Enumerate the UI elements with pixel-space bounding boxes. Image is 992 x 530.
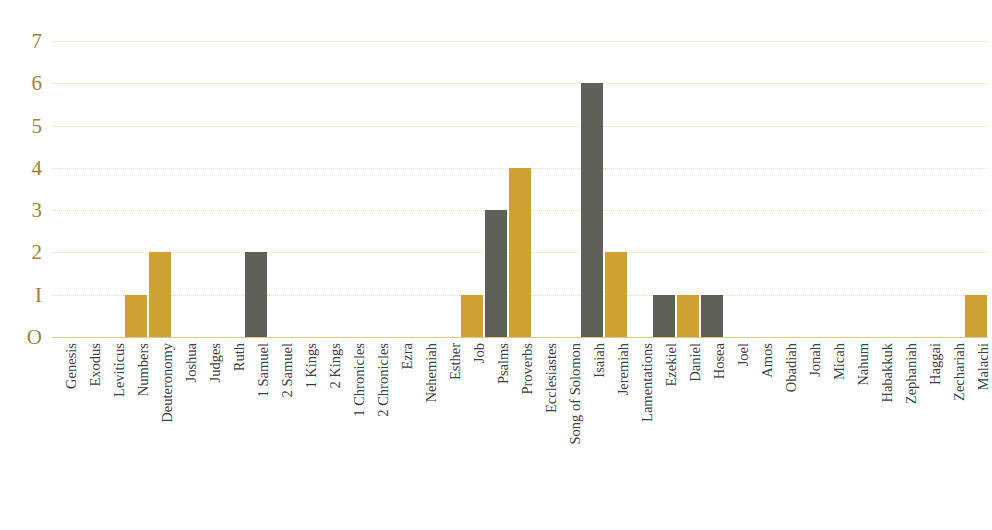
x-tick-label-slot: Exodus xyxy=(76,339,100,524)
y-tick-label: 3 xyxy=(6,200,42,221)
x-tick-label-slot: 2 Samuel xyxy=(268,339,292,524)
chart-screenshot: 765432IO GenesisExodusLeviticusNumbersDe… xyxy=(0,0,992,530)
x-tick-label-slot: Numbers xyxy=(124,339,148,524)
x-tick-label-slot: Habakkuk xyxy=(868,339,892,524)
plot-area xyxy=(52,41,988,337)
x-tick-label-slot: Nehemiah xyxy=(412,339,436,524)
y-tick-label: 2 xyxy=(6,242,42,263)
y-tick-label: 7 xyxy=(6,31,42,52)
bar xyxy=(125,295,147,337)
bar xyxy=(605,252,627,337)
bar xyxy=(461,295,483,337)
x-tick-label-slot: Ezra xyxy=(388,339,412,524)
x-tick-label-slot: Deuteronomy xyxy=(148,339,172,524)
x-tick-label-slot: Lamentations xyxy=(628,339,652,524)
x-tick-label: Malachi xyxy=(976,343,991,391)
x-tick-label-slot: Nahum xyxy=(844,339,868,524)
x-tick-label-slot: 2 Chronicles xyxy=(364,339,388,524)
x-tick-label-slot: Genesis xyxy=(52,339,76,524)
x-tick-label-slot: Leviticus xyxy=(100,339,124,524)
x-tick-label-slot: Judges xyxy=(196,339,220,524)
x-tick-label-slot: Jeremiah xyxy=(604,339,628,524)
bar xyxy=(677,295,699,337)
bar xyxy=(149,252,171,337)
gridline-0 xyxy=(52,337,988,338)
y-tick-label: O xyxy=(6,327,42,348)
bar xyxy=(485,210,507,337)
x-tick-label-slot: Obadiah xyxy=(772,339,796,524)
x-tick-label-slot: Job xyxy=(460,339,484,524)
x-tick-label-slot: Zechariah xyxy=(940,339,964,524)
x-tick-label-slot: Joshua xyxy=(172,339,196,524)
y-tick-label: I xyxy=(6,284,42,305)
x-tick-label-slot: Haggai xyxy=(916,339,940,524)
chart-title-cropped xyxy=(0,0,992,8)
bar xyxy=(701,295,723,337)
x-tick-label-slot: 1 Samuel xyxy=(244,339,268,524)
x-tick-label-slot: Ezekiel xyxy=(652,339,676,524)
x-tick-label-slot: Joel xyxy=(724,339,748,524)
gridline-6 xyxy=(52,83,988,84)
x-axis-tick-labels: GenesisExodusLeviticusNumbersDeuteronomy… xyxy=(52,339,988,524)
x-tick-label-slot: Song of Solomon xyxy=(556,339,580,524)
bar xyxy=(509,168,531,337)
bar xyxy=(581,83,603,337)
x-tick-label-slot: Micah xyxy=(820,339,844,524)
x-tick-label-slot: Ruth xyxy=(220,339,244,524)
x-tick-label-slot: Proverbs xyxy=(508,339,532,524)
gridline-7 xyxy=(52,41,988,42)
x-tick-label-slot: Zephaniah xyxy=(892,339,916,524)
x-tick-label-slot: Esther xyxy=(436,339,460,524)
x-tick-label-slot: Jonah xyxy=(796,339,820,524)
x-tick-label-slot: Psalms xyxy=(484,339,508,524)
y-tick-label: 6 xyxy=(6,73,42,94)
x-tick-label-slot: 1 Chronicles xyxy=(340,339,364,524)
x-tick-label-slot: Ecclesiastes xyxy=(532,339,556,524)
bar xyxy=(245,252,267,337)
x-tick-label-slot: Hosea xyxy=(700,339,724,524)
gridline-5 xyxy=(52,126,988,127)
x-tick-label-slot: Isaiah xyxy=(580,339,604,524)
x-tick-label-slot: Daniel xyxy=(676,339,700,524)
x-tick-label-slot: Amos xyxy=(748,339,772,524)
x-tick-label-slot: 2 Kings xyxy=(316,339,340,524)
x-tick-label-slot: Malachi xyxy=(964,339,988,524)
y-tick-label: 4 xyxy=(6,157,42,178)
x-tick-label-slot: 1 Kings xyxy=(292,339,316,524)
y-tick-label: 5 xyxy=(6,115,42,136)
bar xyxy=(653,295,675,337)
bar xyxy=(965,295,987,337)
